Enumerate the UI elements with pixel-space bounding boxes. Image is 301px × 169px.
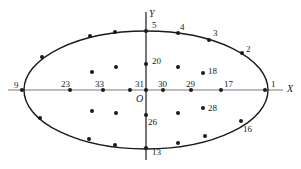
point-label: 28: [208, 104, 217, 113]
point-label: 29: [186, 80, 195, 89]
point-marker: [144, 29, 148, 33]
point-label: 30: [158, 80, 167, 89]
point-label: 9: [14, 81, 19, 90]
x-axis-label: X: [287, 84, 293, 94]
point-marker: [114, 65, 118, 69]
point-marker: [87, 137, 91, 141]
point-marker: [239, 119, 243, 123]
point-marker: [113, 30, 117, 34]
point-marker: [203, 134, 207, 138]
point-marker: [176, 141, 180, 145]
point-label: 26: [148, 118, 157, 127]
point-label: 17: [224, 80, 233, 89]
point-marker: [144, 62, 148, 66]
point-label: 33: [95, 80, 104, 89]
point-label: 18: [208, 67, 217, 76]
point-marker: [263, 88, 267, 92]
point-marker: [207, 38, 211, 42]
point-marker: [90, 70, 94, 74]
point-label: 1: [271, 80, 276, 89]
point-label: 2: [246, 45, 251, 54]
ellipse-point-diagram: X Y O 123459131617182023262829303133: [0, 0, 301, 169]
point-marker: [176, 65, 180, 69]
point-marker: [114, 111, 118, 115]
point-marker: [90, 109, 94, 113]
point-marker: [240, 51, 244, 55]
point-marker: [144, 88, 148, 92]
y-axis-label: Y: [149, 9, 155, 19]
point-marker: [40, 55, 44, 59]
point-label: 5: [152, 21, 157, 30]
point-label: 4: [180, 23, 185, 32]
point-marker: [144, 146, 148, 150]
point-label: 23: [61, 80, 70, 89]
point-marker: [176, 111, 180, 115]
diagram-canvas: [0, 0, 301, 169]
point-marker: [219, 88, 223, 92]
point-marker: [201, 106, 205, 110]
point-marker: [38, 116, 42, 120]
point-marker: [113, 143, 117, 147]
origin-label: O: [136, 94, 143, 104]
point-label: 20: [152, 57, 161, 66]
point-marker: [20, 88, 24, 92]
point-label: 16: [243, 125, 252, 134]
point-label: 31: [135, 80, 144, 89]
point-label: 13: [152, 148, 161, 157]
point-marker: [88, 34, 92, 38]
point-marker: [128, 88, 132, 92]
point-marker: [201, 71, 205, 75]
point-label: 3: [213, 29, 218, 38]
